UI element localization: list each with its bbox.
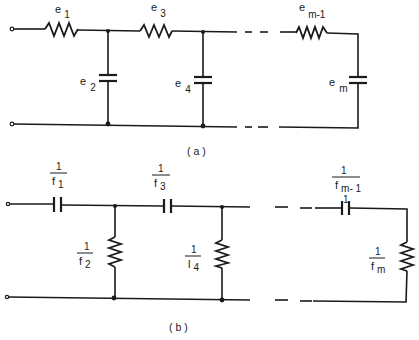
label-f4: 1 l4 xyxy=(185,244,201,273)
svg-text:1: 1 xyxy=(343,194,349,205)
junction-dot xyxy=(201,30,205,34)
terminal-b-top xyxy=(6,202,9,205)
wire-b-right-lower xyxy=(313,271,407,302)
label-f3: 1 f3 xyxy=(152,163,170,192)
resistor-icon-f4 xyxy=(216,240,228,268)
svg-text:f1: f1 xyxy=(52,175,64,190)
wire-b-top-5 xyxy=(350,208,407,242)
ladder-network-diagram: e1 e2 e3 e4 em-1 em ( a ) xyxy=(0,0,419,340)
svg-text:1: 1 xyxy=(341,165,347,176)
svg-text:fm- 1: fm- 1 xyxy=(335,179,362,194)
svg-text:1: 1 xyxy=(191,244,197,255)
terminal-a-bottom xyxy=(10,122,14,126)
junction-dot xyxy=(112,296,117,301)
resistor-icon-fm xyxy=(401,242,413,271)
svg-text:1: 1 xyxy=(84,241,90,252)
wire-b-top-2 xyxy=(61,205,163,206)
junction-dot xyxy=(220,205,224,209)
label-f1: 1 f1 xyxy=(50,161,67,190)
label-fm: 1 fm xyxy=(369,246,385,275)
caption-a: ( a ) xyxy=(187,145,206,157)
resistor-icon-e1 xyxy=(45,23,78,36)
junction-dot xyxy=(113,204,117,208)
terminal-a-top xyxy=(10,27,14,31)
svg-text:1: 1 xyxy=(56,161,62,172)
junction-dot xyxy=(106,29,110,33)
label-e1: e1 xyxy=(55,3,70,20)
resistor-icon-em-1 xyxy=(296,27,327,38)
label-e4: e4 xyxy=(175,77,191,95)
svg-text:fm: fm xyxy=(371,260,385,275)
svg-text:1: 1 xyxy=(375,246,381,257)
svg-text:l4: l4 xyxy=(188,258,199,273)
resistor-icon-f2 xyxy=(109,237,121,267)
wire-b-top-3 xyxy=(171,206,250,207)
label-fm-1: 1 fm- 1 1 xyxy=(332,165,362,205)
svg-text:1: 1 xyxy=(158,163,164,174)
svg-text:f2: f2 xyxy=(79,255,91,270)
junction-dot xyxy=(106,122,111,127)
caption-b: ( b ) xyxy=(169,321,188,333)
terminal-b-bottom xyxy=(5,295,8,298)
svg-text:f3: f3 xyxy=(154,177,166,192)
junction-dot xyxy=(201,124,206,129)
wire-b-bottom-1 xyxy=(8,297,250,300)
resistor-icon-e3 xyxy=(140,25,172,37)
label-em: em xyxy=(329,76,347,94)
circuit-a: e1 e2 e3 e4 em-1 em ( a ) xyxy=(10,1,367,157)
junction-dot xyxy=(220,298,225,303)
wire-a-top-5 xyxy=(327,33,358,77)
label-e2: e2 xyxy=(80,75,96,93)
circuit-b: 1 f1 1 f2 1 f3 1 l4 xyxy=(5,161,413,333)
label-e3: e3 xyxy=(151,1,166,19)
label-em-1: em-1 xyxy=(299,1,326,20)
label-f2: 1 f2 xyxy=(77,241,93,270)
